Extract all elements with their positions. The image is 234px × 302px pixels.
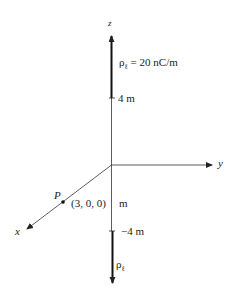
gap-unit-label: m [119, 198, 128, 209]
upper-endpoint-label: 4 m [118, 93, 135, 104]
point-p-coords: (3, 0, 0) [71, 198, 106, 209]
point-p-label: P [54, 190, 61, 201]
upper-charge-label: ρℓ = 20 nC/m [119, 57, 178, 71]
point-p-marker [61, 200, 65, 204]
lower-charge-label: ρℓ [116, 259, 125, 273]
x-axis-label: x [15, 226, 20, 237]
y-axis-label: y [218, 158, 223, 169]
lower-endpoint-label: −4 m [121, 226, 144, 237]
line-charge-diagram: z y x ρℓ = 20 nC/m 4 m P (3, 0, 0) m −4 … [0, 0, 234, 302]
axes-drawing [0, 0, 234, 302]
z-axis-label: z [108, 19, 112, 28]
